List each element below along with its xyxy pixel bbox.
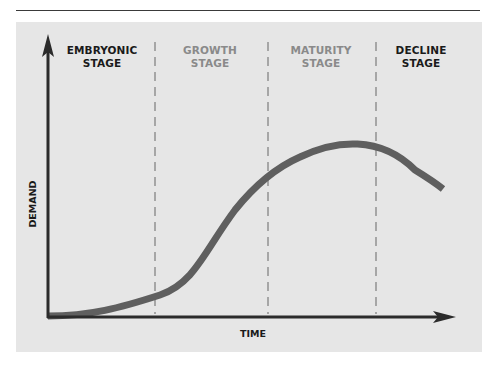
stage-label-embryonic-sub: STAGE <box>83 57 121 69</box>
stage-label-embryonic: EMBRYONIC <box>67 44 138 56</box>
stage-label-growth: GROWTH <box>183 44 237 56</box>
x-axis-label: TIME <box>240 328 266 339</box>
stage-label-decline-sub: STAGE <box>402 57 440 69</box>
y-axis-label: DEMAND <box>27 180 38 227</box>
demand-curve <box>48 144 443 316</box>
stage-label-growth-sub: STAGE <box>191 57 229 69</box>
stage-label-maturity-sub: STAGE <box>302 57 340 69</box>
stage-label-decline: DECLINE <box>396 44 447 56</box>
stage-label-maturity: MATURITY <box>290 44 351 56</box>
lifecycle-chart: EMBRYONIC STAGE GROWTH STAGE MATURITY ST… <box>0 0 498 369</box>
